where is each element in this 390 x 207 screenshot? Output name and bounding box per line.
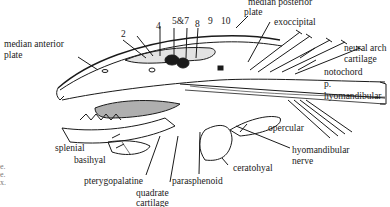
label-9: 9 (208, 16, 213, 26)
label-8: 8 (195, 19, 200, 29)
label-quadrate-cartilage: quadrate (136, 188, 169, 198)
label-basihyal: basihyal (74, 155, 106, 165)
label-5-7: 5&7 (172, 16, 189, 26)
label-notochord: notochord (324, 67, 363, 77)
label-hyomandibular-nerve-2: nerve (292, 156, 313, 166)
label-4: 4 (156, 21, 161, 31)
label-splenial: splenial (55, 143, 85, 153)
caption-fragment: x. (0, 179, 6, 186)
caption-fragment: e. (0, 171, 6, 178)
label-pterygopalatine: pterygopalatine (84, 176, 143, 186)
label-hyomandibular-nerve: hyomandibular (292, 145, 350, 155)
label-opercular: opercular (268, 123, 304, 133)
caption-fragment: e. (0, 163, 6, 170)
label-median-anterior-plate: median anterior (4, 39, 64, 49)
label-median-anterior-plate-2: plate (4, 50, 22, 60)
label-p: p. (324, 79, 331, 89)
label-parasphenoid: parasphenoid (172, 176, 223, 186)
label-exoccipital: exoccipital (274, 17, 316, 27)
label-ceratohyal: ceratohyal (233, 163, 273, 173)
label-neural-arch: neural arch (344, 43, 386, 53)
label-neural-arch-2: cartilage (344, 54, 377, 64)
label-median-posterior-plate: median posterior (248, 0, 312, 7)
label-10: 10 (221, 16, 231, 26)
label-hyomandibular: hyomandibular (324, 91, 382, 101)
label-quadrate-cartilage-2: cartilage (136, 198, 169, 207)
label-2: 2 (121, 29, 126, 39)
label-median-posterior-plate-2: plate (244, 7, 262, 17)
